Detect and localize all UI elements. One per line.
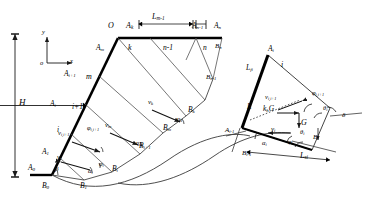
detail-angle-delta: δ bbox=[342, 112, 345, 119]
detail-force-G: G bbox=[301, 119, 307, 127]
angle-beta: β bbox=[55, 166, 59, 173]
axis-label-y: y bbox=[42, 29, 45, 36]
crest-span-label: Lm-1 bbox=[152, 13, 165, 21]
node-Bk: Bk bbox=[188, 106, 195, 115]
angle-eta-k: ηk bbox=[177, 116, 182, 123]
node-A0: A0 bbox=[28, 164, 35, 173]
velocity-vm: vm bbox=[105, 122, 111, 129]
height-label: H bbox=[19, 98, 26, 107]
node-Ai: Ai bbox=[50, 100, 56, 109]
axis-origin-label: o bbox=[40, 60, 43, 67]
detail-length-L: L bbox=[247, 103, 251, 111]
slip-surface-polyline bbox=[52, 79, 213, 180]
node-Bn-1: Bn-1 bbox=[206, 74, 216, 81]
detail-base-dimension bbox=[247, 152, 330, 160]
node-Ak: Ak bbox=[126, 22, 133, 30]
slice-label-n: n bbox=[203, 44, 207, 52]
slice-label-n-1: n-1 bbox=[163, 44, 173, 52]
axis-label-x: x bbox=[70, 58, 73, 65]
detail-node-Ai-1: Ai-1 bbox=[225, 127, 234, 134]
angle-phi-i-i+1: φi,i+1 bbox=[87, 125, 99, 132]
node-A1: A1 bbox=[42, 148, 49, 157]
velocity-vi: vi bbox=[57, 154, 61, 161]
detail-angle-phi-i: φi bbox=[288, 139, 293, 146]
detail-velocity-vi: vi bbox=[271, 126, 275, 133]
node-O: O bbox=[108, 22, 114, 30]
ground-surface-curve bbox=[52, 133, 290, 187]
detail-node-Bi-1: Bi-1 bbox=[242, 150, 251, 157]
coordinate-axes bbox=[47, 37, 72, 63]
node-Bn: Bn bbox=[215, 43, 222, 50]
detail-slice-number: i bbox=[281, 61, 283, 69]
angle-alpha-i: αi bbox=[88, 168, 93, 175]
node-Ai+1: Ai+1 bbox=[64, 70, 76, 79]
node-B0: B0 bbox=[42, 182, 49, 191]
detail-length-Lfi: Lfi bbox=[246, 64, 253, 73]
detail-angle-theta-i-upper: θi bbox=[323, 105, 327, 112]
detail-length-Lsi: Lsi bbox=[300, 152, 308, 160]
detail-node-Bi: Bi bbox=[313, 134, 319, 141]
detail-force-arrows bbox=[268, 101, 318, 140]
detail-force-khG: khG bbox=[263, 105, 274, 114]
node-Am: Am bbox=[96, 44, 104, 53]
detail-angle-phi-i-i+1: φi,i+1 bbox=[312, 90, 324, 97]
node-An: An bbox=[214, 22, 221, 31]
velocity-vi-i+1: vi,i+1 bbox=[58, 130, 69, 137]
detail-dotted-L bbox=[250, 100, 300, 120]
slice-label-k: k bbox=[128, 44, 132, 52]
slice-label-m: m bbox=[86, 73, 92, 81]
angle-eta-m: ηm bbox=[136, 140, 142, 147]
detail-node-Ai: Ai bbox=[268, 45, 274, 54]
angle-phi-i: φi bbox=[99, 161, 104, 168]
node-B1: B1 bbox=[80, 182, 87, 191]
detail-velocity-vi-i+1: vi,i+1 bbox=[265, 94, 276, 101]
detail-angle-alpha-i: αi bbox=[262, 140, 267, 147]
node-Bi: Bi bbox=[112, 165, 118, 174]
slice-label-i+1: i+1 bbox=[72, 103, 83, 111]
node-An-1: An-1 bbox=[192, 22, 203, 31]
velocity-vk: vk bbox=[148, 99, 153, 106]
node-Bm: Bm bbox=[163, 124, 171, 133]
detail-angle-theta-i-lower: θi bbox=[300, 129, 304, 136]
